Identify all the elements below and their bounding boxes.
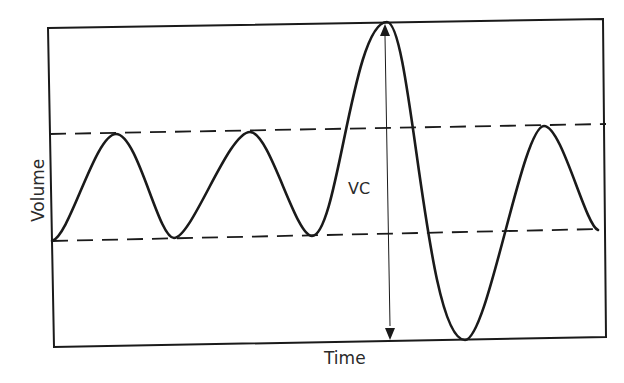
y-axis-label: Volume <box>28 159 48 222</box>
x-axis-label: Time <box>323 348 366 368</box>
vc-arrowhead-up-icon <box>380 24 390 36</box>
vc-label: VC <box>348 179 370 198</box>
vc-arrow-shaft <box>385 36 390 326</box>
volume-trace <box>52 22 598 340</box>
lower-reference-line <box>52 229 600 241</box>
vc-arrowhead-down-icon <box>385 328 395 340</box>
plot-frame <box>48 19 606 347</box>
spirogram-figure: VC Time Volume <box>0 0 624 383</box>
upper-reference-line <box>50 124 606 134</box>
